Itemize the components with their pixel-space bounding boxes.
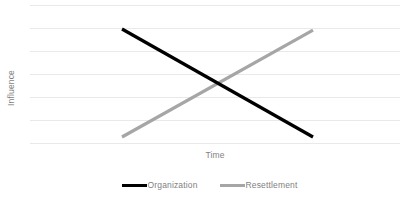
gridlines: [30, 6, 400, 144]
legend-swatch-organization: [122, 184, 147, 187]
legend-label-resettlement: Resettlement: [246, 180, 298, 190]
chart-legend: Organization Resettlement: [0, 180, 419, 190]
line-chart: Influence Time Organization Resettlement: [0, 0, 419, 204]
legend-item-organization[interactable]: Organization: [122, 180, 198, 190]
x-axis-label: Time: [30, 150, 400, 160]
y-axis-label: Influence: [6, 56, 16, 120]
plot-area: Influence Time: [0, 0, 419, 170]
legend-swatch-resettlement: [220, 184, 245, 187]
legend-item-resettlement[interactable]: Resettlement: [220, 180, 298, 190]
legend-label-organization: Organization: [148, 180, 198, 190]
plot-svg: [0, 0, 419, 170]
